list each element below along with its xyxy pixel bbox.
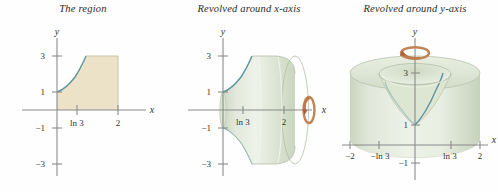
y-ticklabel-1: 1 bbox=[41, 87, 46, 97]
x-ticklabel-ln3: ln 3 bbox=[70, 118, 84, 128]
revolved-y-plot: −2 −ln 3 ln 3 2 3 1 −1 x y bbox=[332, 0, 498, 192]
x-ticklabel-ln3: ln 3 bbox=[236, 117, 250, 127]
x-axis-label: x bbox=[491, 134, 497, 145]
y-ticklabel-3: 3 bbox=[41, 51, 46, 61]
y-ticklabel-3: 3 bbox=[404, 68, 409, 78]
revolved-x-plot: 3 1 −1 −3 ln 3 2 x y bbox=[166, 0, 332, 192]
y-axis-label: y bbox=[54, 26, 60, 37]
region-plot: 3 1 −1 −3 ln 3 2 x y bbox=[0, 0, 166, 192]
x-ticklabel-2: 2 bbox=[116, 118, 121, 128]
x-ticklabel-2: 2 bbox=[478, 151, 483, 161]
y-ticklabel-neg1: −1 bbox=[35, 123, 45, 133]
x-ticklabel-2: 2 bbox=[282, 117, 287, 127]
y-ticklabel-1: 1 bbox=[404, 120, 409, 130]
x-ticklabel-ln3: ln 3 bbox=[443, 151, 457, 161]
y-ticklabel-neg1: −1 bbox=[398, 158, 408, 168]
x-ticklabel-neg2: −2 bbox=[345, 151, 355, 161]
x-ticklabel-neg-ln3: −ln 3 bbox=[371, 151, 390, 161]
region-shaded-area bbox=[57, 56, 118, 110]
y-ticklabel-3: 3 bbox=[207, 51, 212, 61]
panel-the-region: The region 3 1 −1 −3 ln 3 bbox=[0, 0, 166, 192]
y-ticklabel-1: 1 bbox=[207, 87, 212, 97]
y-axis-label: y bbox=[412, 26, 418, 37]
x-axis-label: x bbox=[321, 104, 327, 115]
y-ticklabel-neg3: −3 bbox=[201, 159, 211, 169]
y-axis-label: y bbox=[220, 26, 226, 37]
y-ticklabel-neg3: −3 bbox=[35, 159, 45, 169]
x-axis-label: x bbox=[149, 104, 155, 115]
y-ticklabel-neg1: −1 bbox=[201, 123, 211, 133]
panel-revolved-around-y-axis: Revolved around y-axis bbox=[332, 0, 498, 192]
panel-revolved-around-x-axis: Revolved around x-axis bbox=[166, 0, 332, 192]
figure-solids-of-revolution: The region 3 1 −1 −3 ln 3 bbox=[0, 0, 498, 192]
